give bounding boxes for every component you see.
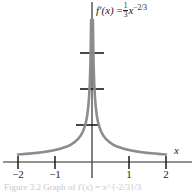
power-exponent: −2/3 (133, 3, 147, 12)
function-argument: (x) (101, 4, 113, 16)
figure-caption: Figure 3.2 Graph of f'(x) = x^{-2/3}/3 (4, 182, 194, 192)
figure-container: f′(x) = 1 3 x−2/3 −2 −1 1 2 x Figure 3.2… (0, 0, 195, 193)
x-tick-label-neg2: −2 (7, 168, 29, 180)
plot-canvas (0, 0, 195, 193)
equals-sign: = (116, 4, 122, 16)
x-axis-label: x (174, 144, 179, 156)
x-tick-label-pos2: 2 (155, 168, 177, 180)
curve-branch-positive (92, 20, 166, 154)
curve-branch-negative (18, 20, 92, 154)
function-equation-label: f′(x) = 1 3 x−2/3 (96, 2, 147, 18)
x-tick-label-neg1: −1 (44, 168, 66, 180)
x-tick-label-pos1: 1 (118, 168, 140, 180)
